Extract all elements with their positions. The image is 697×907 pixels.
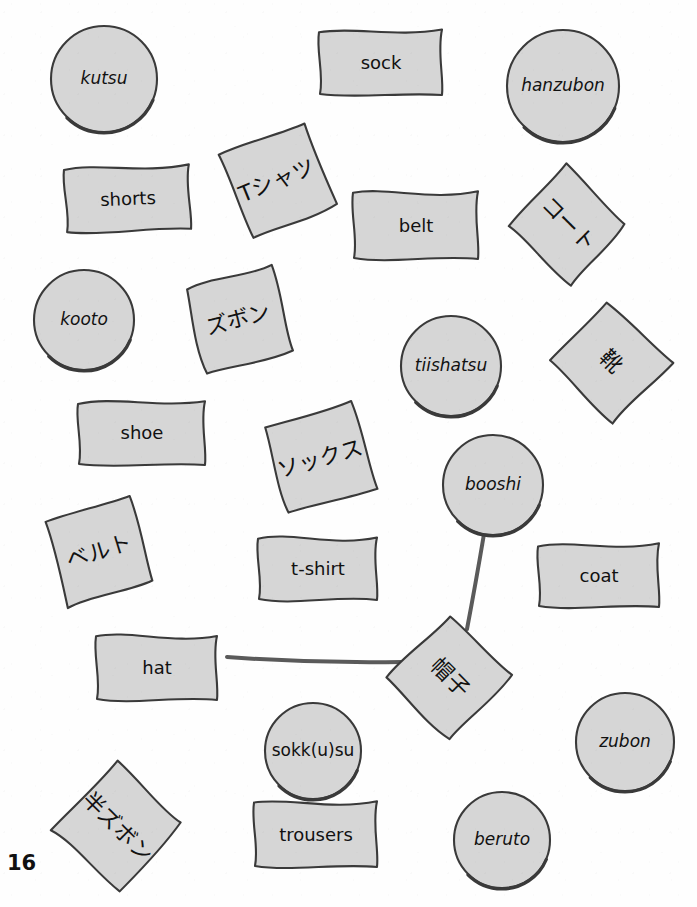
card-shape-circle (48, 23, 160, 135)
vocab-card-hanzubon[interactable]: hanzubon (504, 27, 622, 145)
vocab-card-t-shirt[interactable]: t-shirt (256, 535, 380, 603)
vocab-card-hanzubon-jp[interactable]: 半ズボン (48, 758, 187, 897)
card-shape-square (180, 262, 296, 378)
vocab-card-belt[interactable]: belt (351, 190, 481, 262)
vocab-card-kooto-jp[interactable]: コート (503, 159, 633, 289)
vocab-card-kutsu-jp[interactable]: 靴 (546, 297, 676, 427)
card-shape-wavy (536, 542, 662, 610)
card-shape-wavy (76, 398, 208, 468)
card-shape-circle (31, 267, 137, 373)
card-shape-circle (573, 690, 677, 794)
vocab-card-shorts[interactable]: shorts (62, 162, 194, 236)
card-shape-wavy (256, 535, 380, 603)
vocab-card-booshi[interactable]: booshi (440, 432, 546, 538)
vocab-card-shoe[interactable]: shoe (76, 398, 208, 468)
connector-hat-to-booshi-jp[interactable] (227, 657, 402, 662)
vocab-card-trousers[interactable]: trousers (252, 800, 380, 870)
card-shape-circle (398, 313, 504, 419)
vocab-card-zubon[interactable]: zubon (573, 690, 677, 794)
card-shape-wavy (252, 800, 380, 870)
vocab-card-beruto-jp[interactable]: ベルト (39, 492, 159, 612)
vocab-card-sock[interactable]: sock (317, 28, 445, 98)
card-shape-square (48, 758, 187, 897)
card-shape-square (382, 610, 518, 746)
vocab-card-coat[interactable]: coat (536, 542, 662, 610)
card-shape-wavy (62, 162, 194, 236)
card-shape-square (259, 398, 380, 519)
card-shape-circle (504, 27, 622, 145)
worksheet-page: kutsusockhanzubonshortsTシャツbeltコートkootoズ… (0, 0, 697, 907)
card-shape-square (39, 492, 159, 612)
vocab-card-tiishatsu[interactable]: tiishatsu (398, 313, 504, 419)
card-shape-circle (440, 432, 546, 538)
card-shape-circle (262, 700, 364, 802)
card-shape-wavy (317, 28, 445, 98)
card-shape-square (546, 297, 676, 427)
vocab-card-sokkusu[interactable]: sokk(u)su (262, 700, 364, 802)
connector-booshi-to-booshi-jp[interactable] (467, 534, 484, 629)
card-shape-wavy (94, 633, 220, 703)
vocab-card-t-shatsu[interactable]: Tシャツ (215, 119, 340, 244)
page-number: 16 (7, 851, 36, 875)
vocab-card-booshi-jp[interactable]: 帽子 (382, 610, 518, 746)
vocab-card-zubon-jp[interactable]: ズボン (180, 262, 296, 378)
vocab-card-sokkusu-jp[interactable]: ソックス (259, 398, 380, 519)
vocab-card-beruto[interactable]: beruto (451, 789, 553, 891)
card-shape-wavy (351, 190, 481, 262)
top-cutoff-text (0, 0, 697, 9)
vocab-card-kutsu[interactable]: kutsu (48, 23, 160, 135)
vocab-card-hat[interactable]: hat (94, 633, 220, 703)
card-shape-square (503, 159, 633, 289)
card-shape-square (215, 119, 340, 244)
card-shape-circle (451, 789, 553, 891)
vocab-card-kooto[interactable]: kooto (31, 267, 137, 373)
